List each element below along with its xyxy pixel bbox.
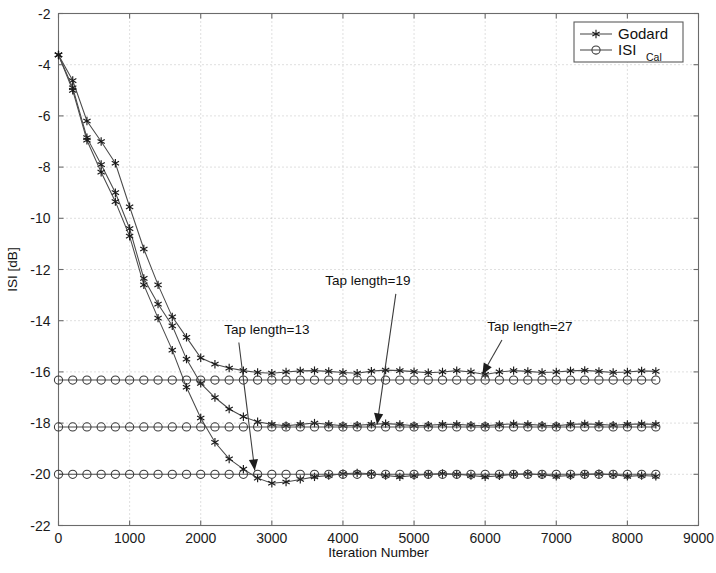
x-tick-label: 5000 xyxy=(398,530,429,546)
x-tick-label: 1000 xyxy=(114,530,145,546)
y-tick-label: -12 xyxy=(30,262,50,278)
axis-titles: Iteration NumberISI [dB] xyxy=(5,247,429,560)
y-tick-label: -10 xyxy=(30,210,50,226)
x-tick-label: 2000 xyxy=(185,530,216,546)
legend-label-1: ISI xyxy=(618,41,636,58)
annotation-arrow-head xyxy=(374,413,383,425)
y-tick-label: -22 xyxy=(30,518,50,534)
chart-canvas: 0100020003000400050006000700080009000-2-… xyxy=(0,0,716,573)
legend-subscript-1: Cal xyxy=(646,51,662,63)
annotation-arrow-head xyxy=(249,459,258,470)
y-tick-label: -6 xyxy=(38,108,51,124)
x-tick-label: 8000 xyxy=(612,530,643,546)
annotation-leader-line xyxy=(239,343,255,471)
y-tick-label: -4 xyxy=(38,57,51,73)
annotation-label: Tap length=19 xyxy=(325,273,410,288)
y-axis-title: ISI [dB] xyxy=(5,247,20,291)
x-tick-label: 0 xyxy=(55,530,63,546)
figure-container: 0100020003000400050006000700080009000-2-… xyxy=(0,0,716,573)
x-axis-title: Iteration Number xyxy=(328,545,429,560)
series-path xyxy=(59,55,656,483)
x-tick-label: 9000 xyxy=(683,530,714,546)
x-tick-label: 7000 xyxy=(541,530,572,546)
y-tick-label: -8 xyxy=(38,159,51,175)
y-tick-label: -18 xyxy=(30,415,50,431)
legend-label-0: Godard xyxy=(618,25,668,42)
x-tick-label: 6000 xyxy=(470,530,501,546)
annotation-label: Tap length=27 xyxy=(487,319,572,334)
annotation-label: Tap length=13 xyxy=(224,322,309,337)
x-tick-label: 4000 xyxy=(327,530,358,546)
legend[interactable]: GodardISICal xyxy=(574,22,683,63)
y-tick-label: -20 xyxy=(30,466,50,482)
annotation-leader-line xyxy=(377,294,396,425)
y-tick-label: -16 xyxy=(30,364,50,380)
x-tick-label: 3000 xyxy=(256,530,287,546)
annotation-arrow-head xyxy=(482,363,491,375)
grid-layer xyxy=(59,14,699,526)
y-tick-label: -2 xyxy=(38,6,51,22)
data-series-layer xyxy=(54,51,660,488)
y-tick-label: -14 xyxy=(30,313,50,329)
